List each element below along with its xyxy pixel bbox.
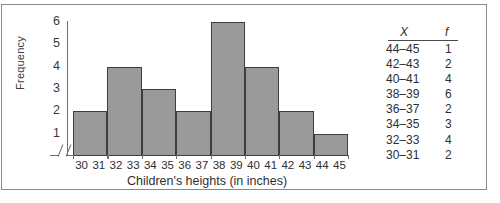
bar-series <box>73 21 348 156</box>
table-row: 30–312 <box>384 148 468 163</box>
y-tick-label: 3 <box>42 82 60 95</box>
y-tick-label: 5 <box>42 37 60 50</box>
table-cell-interval: 32–33 <box>386 133 419 147</box>
y-tick-label: 4 <box>42 60 60 73</box>
table-cell-interval: 40–41 <box>386 72 419 86</box>
table-row: 38–396 <box>384 87 468 102</box>
table-row: 40–414 <box>384 72 468 87</box>
table-cell-frequency: 3 <box>445 117 452 131</box>
table-cell-frequency: 1 <box>445 42 452 56</box>
table-cell-interval: 34–35 <box>386 117 419 131</box>
table-header-rule <box>388 40 458 41</box>
table-cell-frequency: 4 <box>445 72 452 86</box>
table-body: 44–45142–43240–41438–39636–37234–35332–3… <box>384 42 468 163</box>
table-cell-interval: 36–37 <box>386 102 419 116</box>
table-row: 34–353 <box>384 117 468 132</box>
y-axis-tick-labels: 123456 <box>42 17 60 157</box>
table-row: 36–372 <box>384 102 468 117</box>
frequency-table: X f 44–45142–43240–41438–39636–37234–353… <box>384 25 468 40</box>
x-tick-label: 45 <box>328 159 350 171</box>
y-tick-label: 1 <box>42 127 60 140</box>
table-cell-frequency: 2 <box>445 148 452 162</box>
table-row: 44–451 <box>384 42 468 57</box>
bar <box>314 134 348 156</box>
y-axis-label: Frequency <box>14 27 26 99</box>
histogram-plot: Frequency 123456 30313233343536373839404… <box>2 5 362 191</box>
x-axis-label: Children's heights (in inches) <box>62 174 352 188</box>
bar <box>142 89 176 156</box>
bar <box>245 67 279 156</box>
x-axis-tick-labels: 30313233343536373839404142434445 <box>67 159 348 175</box>
bar <box>211 22 245 156</box>
table-row: 32–334 <box>384 133 468 148</box>
table-cell-frequency: 4 <box>445 133 452 147</box>
bar <box>176 111 210 156</box>
table-cell-frequency: 2 <box>445 102 452 116</box>
bar <box>279 111 313 156</box>
table-cell-frequency: 6 <box>445 87 452 101</box>
table-cell-interval: 44–45 <box>386 42 419 56</box>
table-cell-interval: 30–31 <box>386 148 419 162</box>
table-header-x: X <box>400 25 408 39</box>
y-tick-label: 2 <box>42 104 60 117</box>
table-header-f: f <box>445 25 448 39</box>
table-cell-interval: 42–43 <box>386 57 419 71</box>
table-row: 42–432 <box>384 57 468 72</box>
y-tick-label: 6 <box>42 15 60 28</box>
table-cell-frequency: 2 <box>445 57 452 71</box>
table-header-row: X f <box>384 25 468 40</box>
figure-frame: Frequency 123456 30313233343536373839404… <box>1 4 487 190</box>
table-cell-interval: 38–39 <box>386 87 419 101</box>
bar <box>73 111 107 156</box>
y-axis-line <box>67 21 68 155</box>
bar <box>107 67 141 156</box>
